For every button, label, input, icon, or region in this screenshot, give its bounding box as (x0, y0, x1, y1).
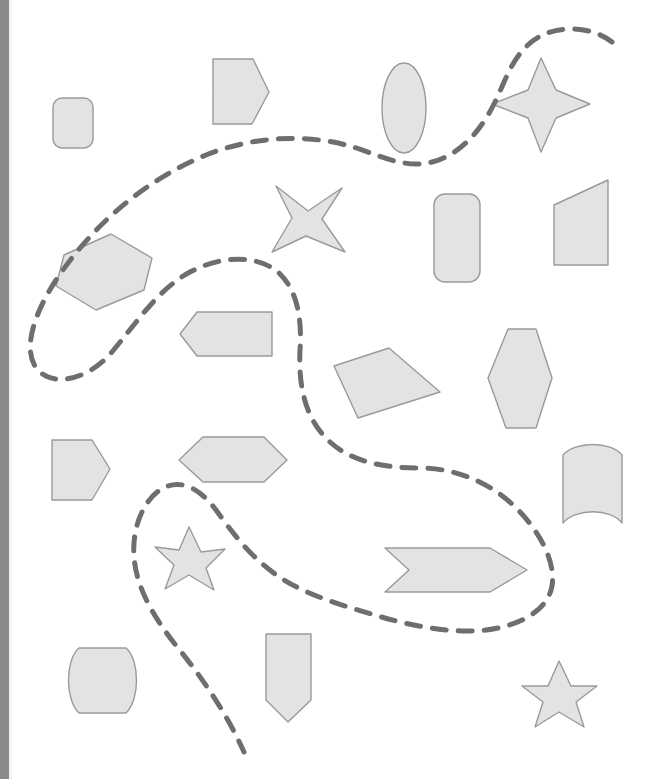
rounded-rectangle (53, 98, 93, 148)
left-pointing-pentagon (180, 312, 272, 356)
four-pointed-star (492, 58, 590, 152)
right-pointing-pentagon-small (52, 440, 110, 500)
curved-side-rectangle (69, 648, 137, 713)
five-pointed-star (155, 527, 225, 590)
shapes-canvas (0, 0, 651, 779)
four-pointed-star-rotated (272, 186, 345, 252)
rotated-quadrilateral (334, 348, 440, 418)
trapezoid-quadrilateral (554, 180, 608, 265)
horizontal-hexagon (179, 437, 287, 482)
downward-pennant (266, 634, 311, 722)
chevron-arrow-banner (385, 548, 527, 592)
five-pointed-star-small (522, 661, 597, 727)
rounded-rectangle-tall (434, 194, 480, 282)
shape-layer (0, 0, 651, 779)
rotated-hexagon (56, 234, 152, 310)
curved-top-bottom-rectangle (563, 445, 622, 524)
vertical-hexagon (488, 329, 552, 428)
ellipse (382, 63, 426, 153)
right-pointing-pentagon (213, 59, 269, 124)
